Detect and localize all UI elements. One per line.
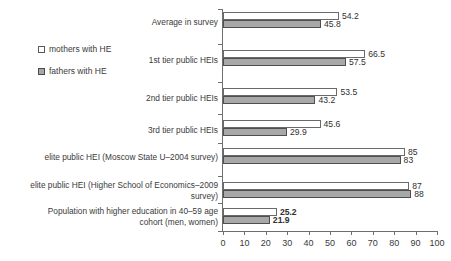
value-axis-tick [416, 231, 417, 235]
value-axis-tick-label: 30 [282, 238, 292, 248]
value-axis-tick [244, 231, 245, 235]
value-axis-tick-label: 0 [220, 238, 225, 248]
value-axis-tick [287, 231, 288, 235]
value-axis-tick [330, 231, 331, 235]
bar-chart: Average in survey54.245.81st tier public… [0, 0, 451, 261]
bar-value-label: 88 [414, 190, 424, 198]
bar-fathers [223, 58, 346, 66]
value-axis-tick [373, 231, 374, 235]
category-axis-tick [218, 82, 222, 83]
bar-mothers [223, 148, 405, 156]
bar-value-label: 29.9 [290, 128, 307, 136]
category-axis-tick [218, 231, 222, 232]
bar-value-label: 21.9 [273, 216, 290, 224]
category-label: Average in survey [152, 17, 218, 28]
value-axis-tick [351, 231, 352, 235]
bar-value-label: 53.5 [340, 88, 357, 96]
value-axis-tick [266, 231, 267, 235]
bar-fathers [223, 156, 401, 164]
value-axis-tick-label: 20 [261, 238, 271, 248]
bar-value-label: 57.5 [349, 58, 366, 66]
category-label: 3rd tier public HEIs [148, 125, 218, 136]
category-axis-tick [218, 143, 222, 144]
category-axis-tick [218, 9, 222, 10]
category-label: elite public HEI (Higher School of Econo… [30, 180, 218, 201]
bar-fathers [223, 20, 321, 28]
bar-value-label: 54.2 [342, 12, 359, 20]
category-label: Population with higher education in 40–5… [48, 206, 218, 227]
bar-value-label: 66.5 [368, 50, 385, 58]
bar-mothers [223, 50, 365, 58]
category-label: 2nd tier public HEIs [146, 93, 218, 104]
value-axis-tick-label: 60 [346, 238, 356, 248]
bar-mothers [223, 12, 339, 20]
bar-value-label: 43.2 [318, 96, 335, 104]
bar-mothers [223, 182, 409, 190]
bar-fathers [223, 190, 411, 198]
bar-mothers [223, 208, 277, 216]
value-axis-tick-label: 70 [368, 238, 378, 248]
bar-value-label: 45.8 [324, 20, 341, 28]
value-axis-tick [309, 231, 310, 235]
category-label: 1st tier public HEIs [149, 55, 218, 66]
category-axis-tick [218, 203, 222, 204]
value-axis-tick-label: 90 [411, 238, 421, 248]
bar-value-label: 45.6 [324, 120, 341, 128]
category-axis-tick [218, 44, 222, 45]
value-axis-tick [394, 231, 395, 235]
bar-fathers [223, 128, 287, 136]
category-axis-tick [218, 114, 222, 115]
category-label: elite public HEI (Moscow State U–2004 su… [45, 152, 218, 163]
value-axis-tick [223, 231, 224, 235]
value-axis-tick-label: 80 [389, 238, 399, 248]
bar-fathers [223, 96, 315, 104]
value-axis-tick-label: 100 [429, 238, 444, 248]
bar-value-label: 83 [404, 156, 414, 164]
bar-fathers [223, 216, 270, 224]
value-axis-tick-label: 40 [304, 238, 314, 248]
value-axis-tick-label: 50 [325, 238, 335, 248]
value-axis-tick [437, 231, 438, 235]
value-axis-tick-label: 10 [239, 238, 249, 248]
category-axis-tick [218, 176, 222, 177]
